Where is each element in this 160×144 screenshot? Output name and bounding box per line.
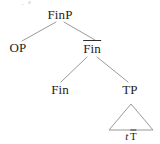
edge-finp-finbar: [64, 22, 95, 40]
node-op: OP: [10, 41, 27, 54]
t-bar-label: T: [130, 131, 137, 142]
triangle-leaf-text: tT: [125, 131, 136, 142]
node-op-label: OP: [10, 40, 27, 55]
node-fin-bar-label: Fin: [83, 41, 101, 55]
edge-finbar-fin: [61, 57, 87, 82]
node-fin: Fin: [51, 83, 69, 96]
tree-branches: [0, 0, 160, 144]
node-tp: TP: [122, 83, 137, 96]
edge-finbar-tp: [97, 57, 128, 82]
node-fin-bar: Fin: [83, 41, 101, 55]
node-tp-label: TP: [122, 82, 137, 97]
edge-finp-op: [22, 22, 56, 41]
node-fin-label: Fin: [51, 82, 69, 97]
syntax-tree-figure: FinP OP Fin Fin TP tT: [0, 0, 160, 144]
node-finp: FinP: [48, 8, 73, 21]
node-finp-label: FinP: [48, 7, 73, 22]
tp-expansion-triangle: [109, 104, 153, 130]
